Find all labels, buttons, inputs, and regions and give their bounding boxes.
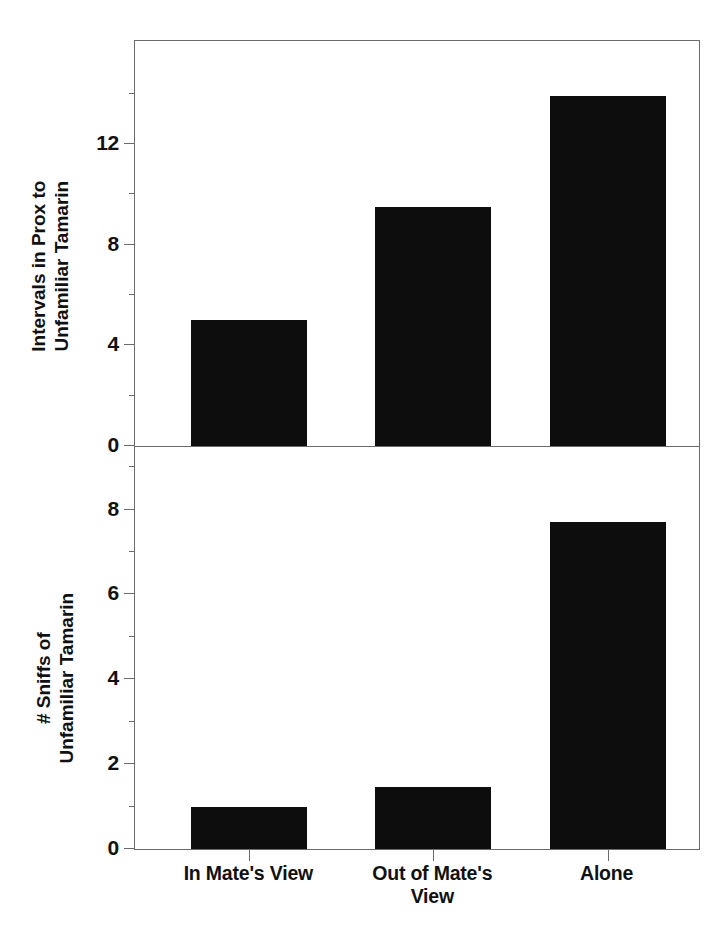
y-axis-tick (124, 344, 135, 345)
bar (550, 96, 666, 446)
bar (191, 807, 307, 849)
x-axis-tick (608, 849, 609, 861)
y-axis-tick (124, 445, 135, 446)
y-axis-minor-tick (129, 93, 135, 94)
y-axis-tick-label: 0 (108, 433, 119, 457)
y-axis-title-top-line2: Unfamiliar Tamarin (50, 141, 73, 391)
y-axis-minor-tick (129, 636, 135, 637)
y-axis-tick (124, 678, 135, 679)
figure-two-panel-bar-chart: 04812 Intervals in Prox to Unfamiliar Ta… (0, 0, 725, 940)
y-axis-tick-label: 4 (108, 666, 119, 690)
chart-panel-top: 04812 (134, 40, 700, 447)
y-axis-tick-label: 6 (108, 581, 119, 605)
y-axis-title-bottom: # Sniffs of Unfamiliar Tamarin (32, 553, 78, 803)
bar (191, 320, 307, 446)
x-axis-tick (433, 849, 434, 861)
y-axis-minor-tick (129, 551, 135, 552)
y-axis-title-top-line1: Intervals in Prox to (27, 141, 50, 391)
y-axis-tick-label: 8 (108, 232, 119, 256)
bar (550, 522, 666, 849)
x-axis-tick (249, 849, 250, 861)
chart-panel-bottom: 02468 (134, 447, 700, 850)
y-axis-tick-label: 8 (108, 497, 119, 521)
y-axis-tick (124, 763, 135, 764)
y-axis-minor-tick (129, 721, 135, 722)
y-axis-tick (124, 848, 135, 849)
x-axis-category-label-line1: Alone (502, 862, 712, 885)
y-axis-minor-tick (129, 806, 135, 807)
plot-area-bottom: 02468 (135, 447, 699, 849)
y-axis-minor-tick (129, 294, 135, 295)
y-axis-tick-label: 12 (96, 131, 119, 155)
bar (375, 207, 491, 446)
y-axis-tick (124, 244, 135, 245)
x-axis-category-label: In Mate's View (143, 862, 353, 885)
x-axis-category-label: Alone (502, 862, 712, 885)
bar (375, 787, 491, 849)
x-axis-category-label-line2: View (327, 885, 537, 908)
x-axis-category-label-line1: In Mate's View (143, 862, 353, 885)
y-axis-tick-label: 4 (108, 332, 119, 356)
y-axis-tick (124, 143, 135, 144)
y-axis-minor-tick (129, 395, 135, 396)
y-axis-title-top: Intervals in Prox to Unfamiliar Tamarin (27, 141, 73, 391)
plot-area-top: 04812 (135, 41, 699, 446)
y-axis-minor-tick (129, 193, 135, 194)
y-axis-title-bottom-line2: Unfamiliar Tamarin (55, 553, 78, 803)
y-axis-tick-label: 2 (108, 751, 119, 775)
y-axis-tick (124, 593, 135, 594)
y-axis-minor-tick (129, 466, 135, 467)
y-axis-tick-label: 0 (108, 836, 119, 860)
y-axis-title-bottom-line1: # Sniffs of (32, 553, 55, 803)
y-axis-tick (124, 509, 135, 510)
